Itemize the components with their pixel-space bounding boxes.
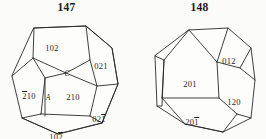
face-label-201-left-148: 201 (183, 79, 197, 89)
outline-fill-148 (155, 28, 255, 132)
vertex-label-c-147: C (64, 69, 69, 78)
face-label-120-right-148: 120 (227, 97, 241, 107)
vertex-label-a-147: A (46, 93, 51, 102)
face-label-102-top-147: 102 (45, 43, 59, 53)
face-label-012-148: 012 (222, 56, 236, 66)
face-label-02bar1-lower-right-147: 021 (92, 114, 106, 124)
crystal-drawing-147 (0, 18, 133, 139)
figure-147: 147 102 021 (0, 0, 133, 139)
crystal-drawing-148 (133, 18, 266, 139)
face-label-210-right-147: 210 (66, 92, 80, 102)
figure-number-148: 148 (133, 1, 266, 13)
figure-148: 148 (133, 0, 266, 139)
face-label-021-upper-right-147: 021 (94, 61, 108, 71)
figure-page: 147 102 021 (0, 0, 266, 139)
face-label-2bar10-left-147: 210 (22, 91, 36, 101)
face-label-102bar-bottom-147: 102 (49, 132, 63, 139)
figure-number-147: 147 (0, 1, 133, 13)
face-label-201bar-bottom-148: 201 (185, 117, 199, 127)
